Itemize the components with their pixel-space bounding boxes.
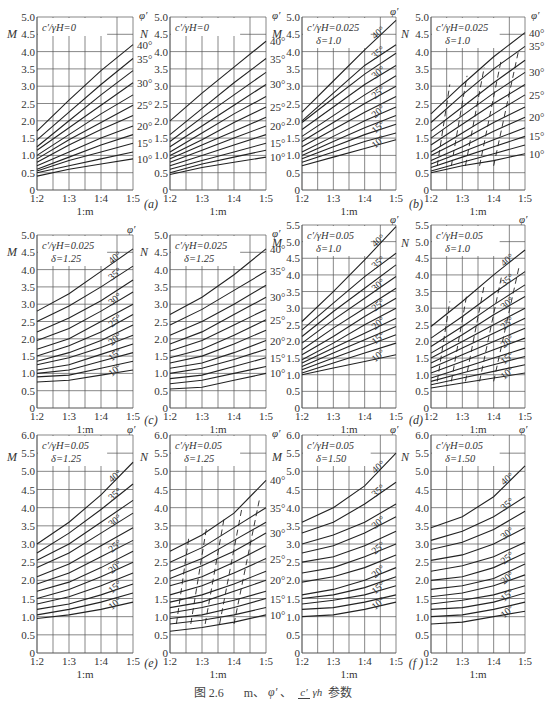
svg-text:4.5: 4.5 [415,484,429,496]
svg-text:0.5: 0.5 [154,629,168,641]
svg-text:1:4: 1:4 [227,192,242,204]
panel-title: c′/γH=0.05 [436,230,483,241]
chart-panel-b-left: 00.51.01.52.02.53.03.54.04.55.0c′/γH=0.0… [271,5,404,217]
svg-text:1.5: 1.5 [154,132,168,144]
svg-text:3.5: 3.5 [21,281,35,293]
svg-text:1:5: 1:5 [126,192,141,204]
svg-text:φ′: φ′ [390,5,399,17]
svg-text:25°: 25° [529,89,544,101]
x-axis-label: 1:m [209,205,227,217]
svg-text:1:4: 1:4 [227,410,242,422]
svg-text:1:2: 1:2 [163,192,177,204]
panel-subtitle: δ=1.0 [316,35,342,46]
svg-text:5.5: 5.5 [286,219,300,231]
y-axis-label: N [400,450,410,464]
svg-text:35°: 35° [498,271,516,288]
svg-text:6.0: 6.0 [415,429,429,441]
panel-subtitle: δ=1.50 [316,453,347,464]
svg-text:25°: 25° [498,314,516,331]
x-axis-label: 1:m [209,668,227,680]
panel-title: c′/γH=0.025 [307,22,359,33]
svg-text:1.5: 1.5 [415,132,429,144]
x-axis-label: 1:m [469,668,487,680]
svg-text:4.5: 4.5 [21,28,35,40]
svg-text:0.5: 0.5 [286,629,300,641]
caption-figure-number: 图 2.6 [194,683,224,701]
svg-text:1:2: 1:2 [30,410,44,422]
svg-text:40°: 40° [369,24,387,41]
svg-text:2.5: 2.5 [286,319,300,331]
svg-text:3.5: 3.5 [415,63,429,75]
figure-2-6: 00.51.01.52.02.53.03.54.04.55.0c′/γH=0M1… [0,0,546,719]
svg-text:15°: 15° [369,579,387,596]
svg-text:35°: 35° [270,53,285,65]
svg-text:15°: 15° [270,593,285,605]
y-axis-label: N [139,27,149,41]
panel-title: c′/γH=0.05 [175,440,222,451]
svg-text:40°: 40° [498,251,516,268]
panel-subtitle: δ=1.0 [445,35,471,46]
svg-text:2.0: 2.0 [415,115,429,127]
svg-text:2.0: 2.0 [286,335,300,347]
svg-text:0.5: 0.5 [286,167,300,179]
caption-frac-den: γh [312,686,322,698]
svg-text:1.0: 1.0 [154,611,168,623]
svg-text:2.5: 2.5 [21,98,35,110]
svg-text:3.5: 3.5 [286,63,300,75]
panel-label: (a) [144,197,158,211]
svg-text:40°: 40° [529,27,544,39]
svg-text:3.0: 3.0 [21,298,35,310]
svg-text:30°: 30° [498,294,516,311]
svg-text:2.5: 2.5 [415,319,429,331]
svg-text:0.5: 0.5 [415,385,429,397]
svg-text:1:5: 1:5 [259,192,274,204]
svg-text:3.0: 3.0 [154,298,168,310]
svg-text:15°: 15° [137,137,152,149]
caption-m: m、 [244,683,265,701]
svg-text:4.5: 4.5 [286,484,300,496]
svg-text:1:3: 1:3 [455,655,470,667]
y-axis-label: M [271,236,283,250]
svg-text:5.0: 5.0 [21,229,35,241]
svg-text:1:4: 1:4 [487,655,502,667]
y-axis-label: M [6,450,18,464]
svg-text:1.0: 1.0 [415,149,429,161]
svg-text:10°: 10° [270,151,285,163]
svg-text:3.0: 3.0 [154,538,168,550]
panel-subtitle: δ=1.25 [184,453,214,464]
svg-text:40°: 40° [498,470,516,487]
svg-text:1:4: 1:4 [94,410,109,422]
svg-text:5.0: 5.0 [154,229,168,241]
svg-text:4.0: 4.0 [154,264,168,276]
x-axis-label: 1:m [76,205,94,217]
svg-text:3.5: 3.5 [154,63,168,75]
panel-subtitle: δ=1.0 [445,243,471,254]
svg-text:30°: 30° [270,78,285,90]
panel-title: c′/γH=0.05 [307,230,354,241]
svg-text:1:2: 1:2 [163,655,177,667]
svg-text:1:3: 1:3 [195,192,210,204]
svg-text:1:2: 1:2 [295,410,309,422]
svg-text:1:4: 1:4 [358,410,373,422]
svg-text:2.5: 2.5 [286,98,300,110]
svg-text:40°: 40° [369,458,387,475]
svg-text:3.5: 3.5 [154,281,168,293]
y-axis-label: M [271,450,283,464]
svg-text:35°: 35° [270,502,285,514]
x-axis-label: 1:m [469,423,487,435]
panel-title: c′/γH=0.05 [42,440,89,451]
svg-text:25°: 25° [369,296,387,313]
chart-panel-d-left: 00.51.01.52.02.53.03.54.04.55.05.5c′/γH=… [271,213,404,435]
svg-text:φ′: φ′ [127,223,136,235]
chart-panel-e-right: 00.51.01.52.02.53.03.54.04.55.05.56.0c′/… [139,427,285,680]
caption-phi: φ′ [268,685,277,700]
svg-text:1:3: 1:3 [62,655,77,667]
svg-text:1:2: 1:2 [295,192,309,204]
svg-text:5.5: 5.5 [154,447,168,459]
svg-text:1:4: 1:4 [94,192,109,204]
svg-text:6.0: 6.0 [286,429,300,441]
svg-text:4.0: 4.0 [21,46,35,58]
svg-text:3.5: 3.5 [21,520,35,532]
svg-text:2.0: 2.0 [21,574,35,586]
chart-panel-b-right: 00.51.01.52.02.53.03.54.04.55.0c′/γH=0.0… [400,9,544,217]
